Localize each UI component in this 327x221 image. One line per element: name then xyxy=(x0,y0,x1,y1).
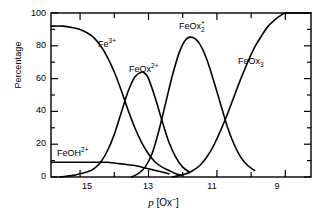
plot-area xyxy=(0,0,327,221)
figure-canvas: Percentage 100 80 60 40 20 0 15 13 11 9 … xyxy=(0,0,327,221)
curve-feoh2- xyxy=(51,162,169,174)
curve-fe3- xyxy=(51,26,183,175)
curve-group xyxy=(51,13,311,177)
axis-tick-marks xyxy=(51,13,311,177)
plot-frame xyxy=(51,13,311,177)
